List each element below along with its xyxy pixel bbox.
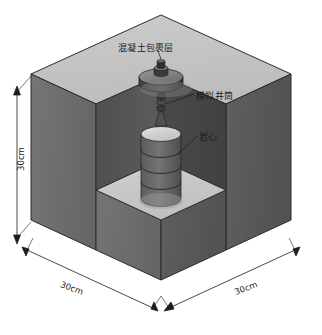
block-right-face <box>226 74 291 250</box>
dim-arrow-height-bottom <box>14 235 21 244</box>
wellbore-segment <box>157 100 165 105</box>
dim-arrow-fl-end <box>151 302 158 311</box>
dim-ext-fr-a <box>161 296 169 308</box>
cap-shadow <box>140 81 192 97</box>
dim-ext-fr-b <box>289 238 295 250</box>
dim-ext-bottom <box>17 222 31 238</box>
cap-stub-top <box>157 59 165 62</box>
rock-core <box>139 127 183 210</box>
rock-core-top <box>141 127 181 142</box>
label-rock-core: 岩心 <box>199 130 218 143</box>
label-simulated-wellbore: 模拟井筒 <box>196 89 233 102</box>
diagram-canvas: 混凝土包裹层 模拟井筒 岩心 30cm 30cm 30cm <box>0 0 322 335</box>
dim-arrow-height-top <box>14 86 21 95</box>
wellbore-segment <box>157 106 165 111</box>
block-left-face <box>31 74 96 250</box>
label-concrete-encapsulation: 混凝土包裹层 <box>118 41 174 54</box>
dim-arrow-fr-start <box>164 302 174 311</box>
rock-core-shadow <box>139 193 183 209</box>
dim-ext-top <box>17 76 31 92</box>
dimension-label-height: 30cm <box>16 147 26 171</box>
dim-ext-fl-a <box>27 238 33 250</box>
